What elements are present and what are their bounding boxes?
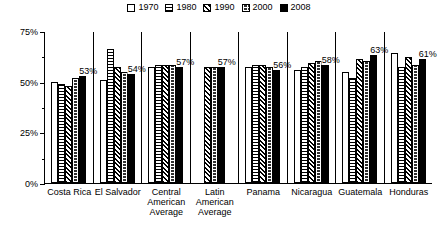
- bars: 61%: [385, 32, 433, 183]
- bar-group-guatemala: 63%: [335, 32, 384, 183]
- bar-1980[interactable]: [252, 65, 259, 183]
- bar-1970[interactable]: [342, 72, 349, 183]
- y-tick-label-25: 25%: [4, 129, 38, 138]
- bar-2008[interactable]: 61%: [419, 59, 426, 183]
- x-axis-labels: Costa RicaEl SalvadorCentral American Av…: [45, 187, 433, 217]
- y-tick-label-50: 50%: [4, 79, 38, 88]
- bar-1990[interactable]: [356, 59, 363, 183]
- bar-1990[interactable]: [405, 57, 412, 183]
- bar-2008[interactable]: 53%: [79, 76, 86, 183]
- bars: 54%: [94, 32, 142, 183]
- bar-group-el-salvador: 54%: [93, 32, 142, 183]
- bar-group-nicaragua: 58%: [287, 32, 336, 183]
- legend-label-1990: 1990: [214, 3, 234, 12]
- x-label-el-salvador: El Salvador: [94, 187, 143, 217]
- bars: 57%: [191, 32, 239, 183]
- legend-label-2000: 2000: [253, 3, 273, 12]
- x-label-panama: Panama: [239, 187, 288, 217]
- legend-item-1980[interactable]: 1980: [165, 3, 196, 12]
- y-tick-label-75: 75%: [4, 28, 38, 37]
- bar-2000[interactable]: [72, 78, 79, 183]
- legend-item-2000[interactable]: 2000: [242, 3, 273, 12]
- chart-legend: 19701980199020002008: [0, 3, 438, 12]
- bar-1980[interactable]: [301, 67, 308, 183]
- legend-label-2008: 2008: [291, 3, 311, 12]
- bar-2000[interactable]: [211, 67, 218, 183]
- bars: 53%: [45, 32, 93, 183]
- bar-1980[interactable]: [58, 84, 65, 183]
- x-axis-line: [44, 183, 432, 184]
- bars: 58%: [288, 32, 336, 183]
- bar-group-central-american-average: 57%: [141, 32, 190, 183]
- plot-area: 0%25%50%75% 53%54%57%57%56%58%63%61%: [44, 32, 432, 184]
- bar-1990[interactable]: [204, 67, 211, 183]
- bar-group-costa-rica: 53%: [45, 32, 93, 183]
- bar-value-label: 61%: [419, 50, 437, 59]
- bar-2008[interactable]: 56%: [273, 70, 280, 183]
- bar-1980[interactable]: [155, 65, 162, 183]
- bar-1990[interactable]: [65, 86, 72, 183]
- bar-1980[interactable]: [398, 67, 405, 183]
- bars: 57%: [142, 32, 190, 183]
- bar-2008[interactable]: 58%: [322, 65, 329, 183]
- bar-2000[interactable]: [363, 61, 370, 183]
- bar-2008[interactable]: 57%: [176, 67, 183, 183]
- bar-2008[interactable]: 57%: [218, 67, 225, 183]
- legend-label-1970: 1970: [138, 3, 158, 12]
- bar-1990[interactable]: [308, 63, 315, 183]
- legend-label-1980: 1980: [176, 3, 196, 12]
- bar-groups: 53%54%57%57%56%58%63%61%: [45, 32, 432, 183]
- bar-group-panama: 56%: [238, 32, 287, 183]
- bar-1970[interactable]: [245, 67, 252, 183]
- bars: 56%: [239, 32, 287, 183]
- y-tick-label-0: 0%: [4, 180, 38, 189]
- y-tick-0: [40, 184, 45, 185]
- legend-swatch-2008: [280, 4, 288, 12]
- x-label-costa-rica: Costa Rica: [45, 187, 94, 217]
- bar-1980[interactable]: [349, 78, 356, 183]
- bar-2000[interactable]: [121, 72, 128, 183]
- x-label-central-american-average: Central American Average: [142, 187, 191, 217]
- x-label-nicaragua: Nicaragua: [288, 187, 337, 217]
- bar-2000[interactable]: [412, 65, 419, 183]
- bar-chart: 19701980199020002008 0%25%50%75% 53%54%5…: [0, 0, 438, 228]
- x-label-guatemala: Guatemala: [336, 187, 385, 217]
- bar-group-latin-american-average: 57%: [190, 32, 239, 183]
- bar-1970[interactable]: [294, 70, 301, 183]
- bar-2000[interactable]: [315, 61, 322, 183]
- legend-swatch-2000: [242, 4, 250, 12]
- bar-1990[interactable]: [259, 65, 266, 183]
- legend-swatch-1980: [165, 4, 173, 12]
- legend-swatch-1990: [203, 4, 211, 12]
- legend-item-2008[interactable]: 2008: [280, 3, 311, 12]
- bar-2000[interactable]: [266, 67, 273, 183]
- x-label-latin-american-average: Latin American Average: [191, 187, 240, 217]
- bar-1970[interactable]: [391, 53, 398, 183]
- bar-1980[interactable]: [107, 49, 114, 183]
- bar-1970[interactable]: [51, 82, 58, 183]
- bar-1970[interactable]: [148, 67, 155, 183]
- bar-2008[interactable]: 54%: [128, 74, 135, 183]
- legend-item-1970[interactable]: 1970: [127, 3, 158, 12]
- legend-swatch-1970: [127, 4, 135, 12]
- x-label-honduras: Honduras: [385, 187, 434, 217]
- bars: 63%: [336, 32, 384, 183]
- bar-2000[interactable]: [169, 65, 176, 183]
- bar-1990[interactable]: [162, 65, 169, 183]
- legend-item-1990[interactable]: 1990: [203, 3, 234, 12]
- bar-1990[interactable]: [114, 67, 121, 183]
- bar-2008[interactable]: 63%: [370, 55, 377, 183]
- bar-group-honduras: 61%: [384, 32, 433, 183]
- bar-value-label: 57%: [218, 58, 236, 67]
- bar-1970[interactable]: [100, 80, 107, 183]
